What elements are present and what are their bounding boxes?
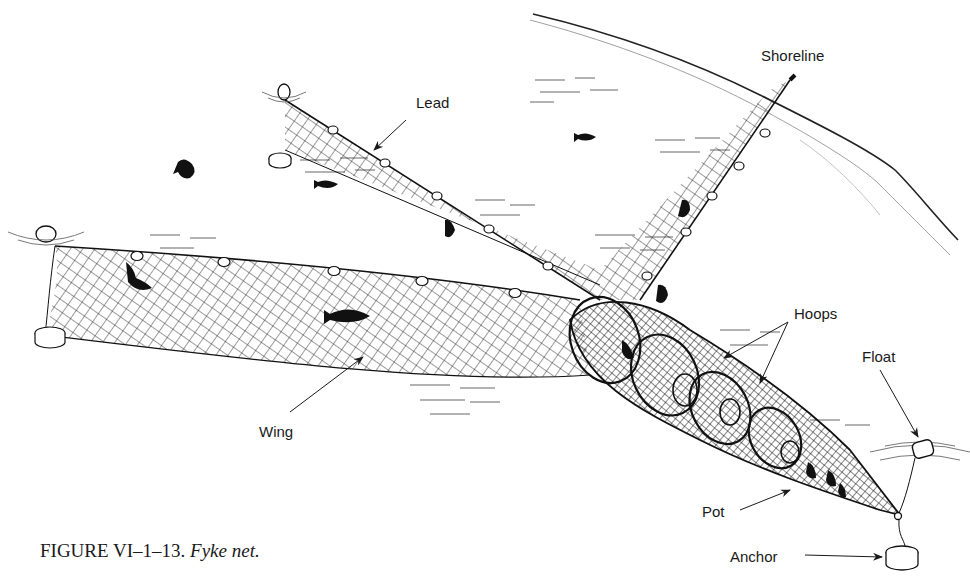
fish-icon — [173, 159, 195, 178]
label-pot: Pot — [702, 503, 725, 520]
lead-end-anchor — [269, 153, 291, 168]
fish-icon — [656, 285, 668, 303]
tail-anchor — [886, 520, 918, 570]
caption-title: Fyke net. — [190, 540, 260, 561]
label-hoops: Hoops — [794, 305, 837, 322]
label-anchor: Anchor — [730, 548, 778, 565]
fyke-net-figure: Shoreline Lead Hoops Float Wing Pot Anch… — [0, 0, 970, 584]
lead-arrow — [374, 120, 406, 150]
caption-number: FIGURE VI–1–13. — [40, 540, 185, 561]
label-shoreline: Shoreline — [761, 47, 824, 64]
hoops-arrow-1 — [724, 322, 788, 358]
wing-end-anchor — [35, 327, 65, 348]
wing-net — [8, 226, 590, 377]
anchor-arrow — [805, 555, 882, 557]
fish-icon — [574, 133, 596, 142]
fish-icon — [314, 180, 338, 189]
lead-net — [262, 75, 795, 300]
float-arrow — [880, 370, 918, 437]
pot-arrow — [740, 490, 790, 510]
label-lead: Lead — [416, 94, 449, 111]
wing-end-float — [8, 226, 84, 245]
lead-end-float — [262, 84, 306, 102]
fyke-net-diagram: Shoreline Lead Hoops Float Wing Pot Anch… — [0, 0, 970, 584]
label-float: Float — [862, 348, 896, 365]
label-wing: Wing — [259, 423, 293, 440]
pot — [558, 287, 901, 519]
hoops-arrow-2 — [760, 322, 788, 383]
figure-caption: FIGURE VI–1–13. Fyke net. — [40, 540, 260, 562]
